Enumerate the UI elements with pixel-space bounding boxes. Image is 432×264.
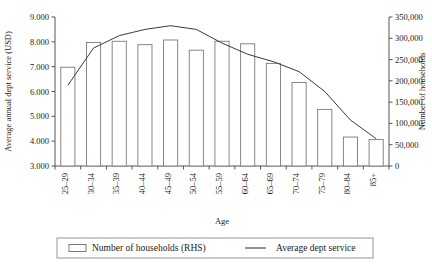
left-axis-tick-label: 5.000: [30, 111, 49, 121]
category-axis-label: 50–54: [188, 172, 198, 194]
category-axis-label: 80–84: [342, 172, 352, 194]
bar: [318, 109, 332, 166]
chart-legend: Number of households (RHS)Average dept s…: [57, 238, 373, 258]
category-axis-label: 55–59: [214, 173, 224, 194]
bar: [241, 44, 255, 166]
category-axis-label: 30–34: [86, 172, 96, 194]
bar: [266, 63, 280, 166]
category-axis-label: 25–29: [60, 173, 70, 194]
bar: [343, 137, 357, 166]
category-axis-label: 35–39: [111, 173, 121, 194]
bar: [61, 67, 75, 166]
bar: [292, 83, 306, 166]
bar: [164, 40, 178, 166]
right-axis-tick-label: 350,000: [395, 12, 423, 22]
category-axis-label: 65–69: [265, 173, 275, 194]
bar: [86, 43, 100, 166]
category-axis-label: 70–74: [291, 172, 301, 194]
left-axis-tick-label: 6.000: [30, 87, 49, 97]
right-axis-tick-label: 0: [395, 161, 399, 171]
bar: [112, 41, 126, 166]
right-axis: 050,000100,000150,000200,000250,000300,0…: [55, 12, 423, 171]
right-axis-title: Number of households: [417, 53, 427, 130]
left-axis: 3.0004.0005.0006.0007.0008.0009.000: [30, 12, 55, 171]
legend-label-households: Number of households (RHS): [92, 243, 206, 254]
right-axis-tick-label: 50,000: [395, 140, 418, 150]
category-axis-label: 60–64: [240, 172, 250, 194]
left-axis-tick-label: 4.000: [30, 136, 49, 146]
bar: [189, 50, 203, 166]
legend-label-debt-service: Average dept service: [276, 243, 355, 253]
x-axis-title: Age: [215, 216, 229, 226]
category-axis-label: 75–79: [317, 173, 327, 194]
bar: [138, 45, 152, 166]
left-axis-tick-label: 8.000: [30, 37, 49, 47]
left-axis-tick-label: 7.000: [30, 62, 49, 72]
category-axis: 25–2930–3435–3940–4445–4950–5455–5960–64…: [55, 166, 389, 194]
left-axis-tick-label: 9.000: [30, 12, 49, 22]
category-axis-label: 45–49: [163, 173, 173, 194]
chart-container: 3.0004.0005.0006.0007.0008.0009.000 050,…: [0, 0, 432, 264]
left-axis-title: Average annual dept service (USD): [3, 31, 13, 152]
category-axis-label: 40–44: [137, 172, 147, 194]
bar: [215, 41, 229, 166]
right-axis-tick-label: 300,000: [395, 33, 423, 43]
legend-bar-swatch: [69, 245, 86, 252]
bar: [369, 140, 383, 166]
category-axis-label: 85+: [368, 173, 378, 187]
debt-service-households-chart: 3.0004.0005.0006.0007.0008.0009.000 050,…: [0, 0, 432, 264]
left-axis-tick-label: 3.000: [30, 161, 49, 171]
